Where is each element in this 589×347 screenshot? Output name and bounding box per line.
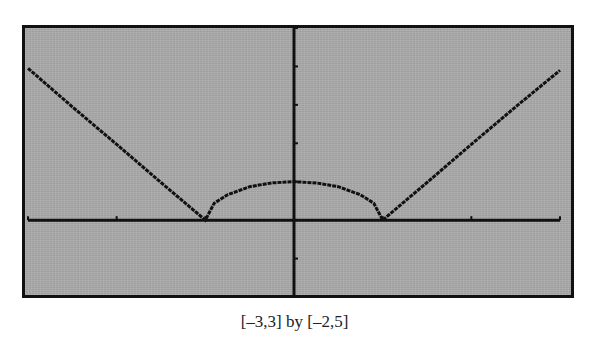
graph-plot xyxy=(0,0,589,347)
window-range-caption: [–3,3] by [–2,5] xyxy=(0,312,589,332)
